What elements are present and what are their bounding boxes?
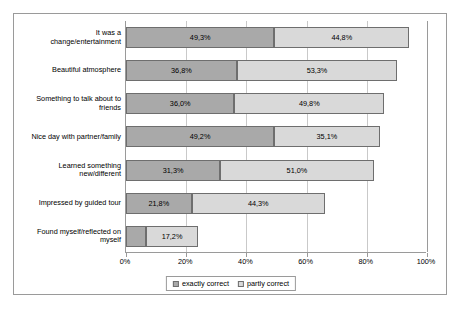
chart-plot-wrapper: It was achange/entertainmentBeautiful at…	[14, 14, 448, 296]
bar-segment: 49,3%	[126, 27, 274, 48]
bar-row: 49,2%35,1%	[126, 120, 426, 153]
bar-segment: 21,8%	[126, 193, 192, 214]
bar-row: 6,7%17,2%	[126, 220, 426, 253]
bar-row: 49,3%44,8%	[126, 21, 426, 54]
x-axis-tick-label: 40%	[238, 257, 253, 266]
bar-value-label: 51,0%	[287, 166, 308, 175]
bar-value-label: 49,3%	[190, 33, 211, 42]
bar-segment: 44,8%	[274, 27, 409, 48]
gridline	[427, 21, 428, 252]
bar-segment: 36,0%	[126, 93, 234, 114]
legend-item-exactly-correct: exactly correct	[173, 279, 229, 288]
legend-item-partly-correct: partly correct	[238, 279, 289, 288]
bar-value-label: 53,3%	[307, 66, 328, 75]
bar-segment: 17,2%	[146, 226, 198, 247]
plot-area: 49,3%44,8%36,8%53,3%36,0%49,8%49,2%35,1%…	[125, 21, 426, 253]
chart-legend: exactly correct partly correct	[166, 276, 296, 291]
bar-segment: 44,3%	[192, 193, 325, 214]
category-label: Nice day with partner/family	[14, 120, 121, 153]
bar-value-label: 17,2%	[162, 232, 183, 241]
bar-segment: 31,3%	[126, 160, 220, 181]
bar-value-label: 35,1%	[317, 132, 338, 141]
category-axis: It was achange/entertainmentBeautiful at…	[14, 21, 125, 253]
x-axis-tick-label: 0%	[120, 257, 131, 266]
bar-segment: 36,8%	[126, 60, 237, 81]
bar-series-group: 49,3%44,8%36,8%53,3%36,0%49,8%49,2%35,1%…	[126, 21, 426, 252]
bar-value-label: 44,3%	[248, 199, 269, 208]
bar-segment: 53,3%	[237, 60, 397, 81]
bar-segment: 51,0%	[220, 160, 374, 181]
bar-segment: 49,2%	[126, 126, 274, 147]
bar-row: 36,0%49,8%	[126, 87, 426, 120]
category-label: Impressed by guided tour	[14, 187, 121, 220]
legend-swatch-icon	[238, 281, 244, 287]
legend-label: partly correct	[247, 279, 289, 288]
x-axis-tick-labels: 0%20%40%60%80%100%	[125, 257, 426, 269]
bar-row: 36,8%53,3%	[126, 54, 426, 87]
legend-swatch-icon	[173, 281, 179, 287]
bar-row: 21,8%44,3%	[126, 187, 426, 220]
category-label: It was achange/entertainment	[14, 21, 121, 54]
category-label: Learned somethingnew/different	[14, 154, 121, 187]
category-label: Beautiful atmosphere	[14, 54, 121, 87]
bar-value-label: 44,8%	[331, 33, 352, 42]
bar-value-label: 49,2%	[190, 132, 211, 141]
bar-value-label: 49,8%	[299, 99, 320, 108]
category-label: Something to talk about tofriends	[14, 87, 121, 120]
bar-segment: 35,1%	[274, 126, 380, 147]
bar-segment: 49,8%	[234, 93, 384, 114]
x-axis-tick-label: 100%	[417, 257, 436, 266]
category-label: Found myself/reflected onmyself	[14, 220, 121, 253]
bar-segment	[126, 226, 146, 247]
legend-label: exactly correct	[182, 279, 229, 288]
bar-row: 31,3%51,0%	[126, 154, 426, 187]
x-axis-tick-label: 60%	[298, 257, 313, 266]
bar-value-label: 36,8%	[171, 66, 192, 75]
x-axis-tick-label: 80%	[358, 257, 373, 266]
chart-frame: It was achange/entertainmentBeautiful at…	[13, 13, 447, 295]
bar-value-label: 21,8%	[148, 199, 169, 208]
bar-value-label: 36,0%	[170, 99, 191, 108]
bar-value-label: 31,3%	[163, 166, 184, 175]
x-axis-tick-label: 20%	[178, 257, 193, 266]
